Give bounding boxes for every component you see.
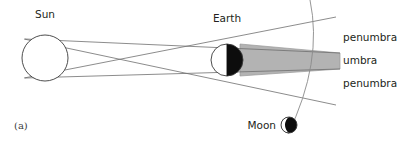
eclipse-diagram-canvas: Sun Earth Moon penumbra umbra penumbr <box>0 0 405 145</box>
penumbra-upper-label: penumbra <box>343 31 397 43</box>
moon-body-group: Moon <box>247 115 299 135</box>
umbra-label: umbra <box>343 54 377 66</box>
sun-body-group: Sun <box>22 8 68 81</box>
eclipse-diagram-figure: Sun Earth Moon penumbra umbra penumbr <box>0 0 405 145</box>
ray-umbra-edge-top <box>25 39 340 53</box>
earth-lit-hemisphere <box>205 40 227 80</box>
sun-body <box>22 35 68 81</box>
panel-caption: (a) <box>14 120 28 131</box>
penumbra-lower-label: penumbra <box>343 77 397 89</box>
sun-label: Sun <box>35 8 55 20</box>
shadow-zone-label-group: penumbra umbra penumbra <box>343 31 397 89</box>
moon-label: Moon <box>247 119 276 131</box>
earth-label: Earth <box>213 12 241 24</box>
ray-umbra-edge-bottom <box>25 69 340 78</box>
